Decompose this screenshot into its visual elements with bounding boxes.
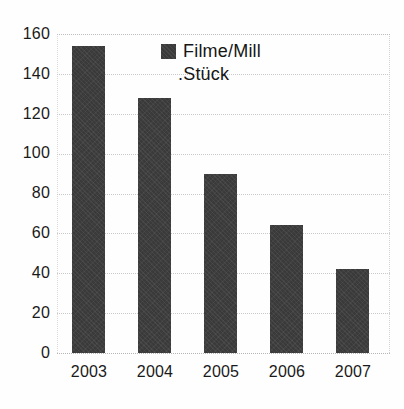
y-tick-label: 0 <box>4 345 50 361</box>
x-tick-label-2003: 2003 <box>56 362 122 382</box>
legend-label-line1: Filme/Mill <box>183 41 261 61</box>
y-tick-label: 20 <box>4 305 50 321</box>
x-axis: 2003 2004 2005 2006 2007 <box>57 362 390 386</box>
y-tick-label: 40 <box>4 265 50 281</box>
x-tick-label-2006: 2006 <box>254 362 320 382</box>
y-tick-label: 60 <box>4 225 50 241</box>
gridline-0-baseline <box>57 353 390 354</box>
y-tick-label: 120 <box>4 106 50 122</box>
y-axis: 160 140 120 100 80 60 40 20 0 <box>0 34 50 353</box>
x-tick-label-2007: 2007 <box>320 362 386 382</box>
y-tick-label: 100 <box>4 145 50 161</box>
bar-chart: 160 140 120 100 80 60 40 20 0 <box>0 0 404 409</box>
plot-area: Filme/Mill.Stück <box>57 34 390 353</box>
bar-2003 <box>72 46 105 353</box>
legend-label-line2: .Stück <box>178 63 261 86</box>
y-tick-label: 160 <box>4 26 50 42</box>
legend-item: Filme/Mill.Stück <box>161 40 341 86</box>
y-tick-label: 80 <box>4 185 50 201</box>
bar-2005 <box>204 174 237 353</box>
legend-color-swatch-icon <box>161 44 176 59</box>
x-tick-label-2005: 2005 <box>188 362 254 382</box>
bar-2004 <box>138 98 171 353</box>
y-tick-label: 140 <box>4 66 50 82</box>
legend-label: Filme/Mill.Stück <box>183 40 261 86</box>
x-tick-label-2004: 2004 <box>122 362 188 382</box>
bar-2006 <box>270 225 303 353</box>
bar-2007 <box>336 269 369 353</box>
legend: Filme/Mill.Stück <box>161 40 341 86</box>
